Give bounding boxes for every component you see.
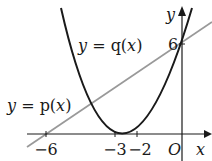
y-axis-label: y [165, 5, 176, 24]
label-p-close: ) [65, 96, 71, 115]
function-graph: −6 −3 −2 6 O x y y = q(x) y = p(x) [0, 0, 212, 161]
y-tick-label-6: 6 [168, 35, 178, 54]
label-p-eq: = p( [16, 96, 56, 115]
label-p: y = p(x) [6, 96, 71, 115]
label-q-eq: = q( [87, 36, 127, 55]
x-axis-arrow-icon [204, 130, 212, 138]
parabola-q [61, 8, 192, 134]
y-axis-arrow-icon [178, 6, 186, 16]
label-q-x: x [127, 36, 136, 55]
x-axis-label: x [196, 140, 205, 159]
label-q: y = q(x) [77, 36, 142, 55]
label-p-x: x [56, 96, 65, 115]
label-q-close: ) [136, 36, 142, 55]
x-tick-label-neg3: −3 [103, 140, 127, 159]
x-tick-label-neg6: −6 [34, 140, 58, 159]
x-tick-label-neg2: −2 [128, 140, 152, 159]
origin-label: O [168, 140, 181, 159]
